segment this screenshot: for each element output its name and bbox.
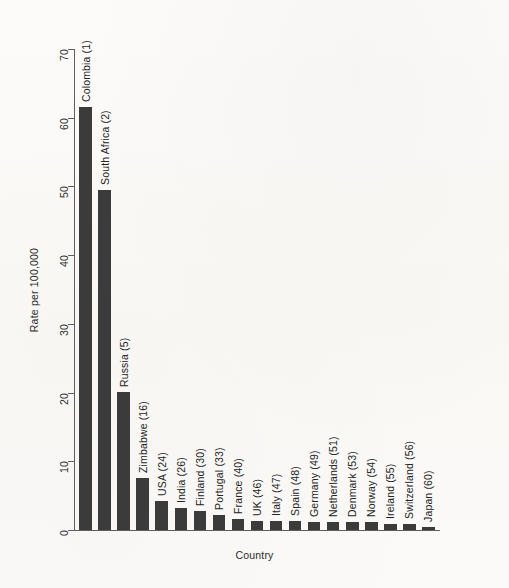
bar[interactable]	[155, 501, 168, 530]
x-axis-line	[74, 530, 440, 531]
y-tick-label: 30	[58, 324, 70, 336]
bar[interactable]	[327, 522, 340, 530]
bar[interactable]	[213, 515, 226, 530]
bar-item[interactable]: Norway (54)	[365, 49, 378, 530]
y-tick-label: 20	[58, 393, 70, 405]
y-tick-label: 10	[58, 461, 70, 473]
bar-item[interactable]: Italy (47)	[270, 49, 283, 530]
bar[interactable]	[308, 522, 321, 530]
bar[interactable]	[79, 107, 92, 530]
bar-label: Netherlands (51)	[327, 436, 339, 517]
bar[interactable]	[251, 521, 264, 530]
bar-label: Denmark (53)	[346, 451, 358, 517]
bar[interactable]	[98, 190, 111, 530]
y-tick-label: 0	[58, 530, 70, 536]
bar[interactable]	[289, 521, 302, 530]
bar-item[interactable]: Denmark (53)	[346, 49, 359, 530]
y-tick-label: 50	[58, 186, 70, 198]
bar-item[interactable]: India (26)	[175, 49, 188, 530]
bar-item[interactable]: Spain (48)	[289, 49, 302, 530]
bar[interactable]	[232, 519, 245, 530]
bar-label: Spain (48)	[289, 466, 301, 516]
bar-label: Norway (54)	[365, 459, 377, 518]
bar-label: Colombia (1)	[80, 41, 92, 103]
bar-label: India (26)	[175, 457, 187, 503]
bar-label: UK (46)	[251, 479, 263, 516]
y-axis-title: Rate per 100,000	[28, 248, 40, 332]
bar-item[interactable]: Portugal (33)	[213, 49, 226, 530]
bar-label: South Africa (2)	[99, 110, 111, 185]
y-tick-label: 60	[58, 118, 70, 130]
bar-item[interactable]: Zimbabwe (16)	[136, 49, 149, 530]
bar-label: Switzerland (56)	[403, 441, 415, 519]
bar-label: Russia (5)	[118, 338, 130, 387]
bar-series: Colombia (1)South Africa (2)Russia (5)Zi…	[76, 49, 438, 530]
bar-item[interactable]: Colombia (1)	[79, 49, 92, 530]
bar-label: USA (24)	[156, 452, 168, 496]
bar-item[interactable]: Ireland (55)	[384, 49, 397, 530]
y-tick-label: 70	[58, 49, 70, 61]
bar-label: Finland (30)	[194, 449, 206, 507]
bar-label: Italy (47)	[270, 474, 282, 516]
bar-item[interactable]: Finland (30)	[194, 49, 207, 530]
bar[interactable]	[117, 392, 130, 530]
bar-item[interactable]: Switzerland (56)	[403, 49, 416, 530]
bar-label: Germany (49)	[308, 450, 320, 517]
chart-page: 010203040506070 Rate per 100,000 Country…	[0, 0, 509, 588]
bar[interactable]	[270, 521, 283, 530]
bar-item[interactable]: Japan (60)	[422, 49, 435, 530]
bar[interactable]	[194, 511, 207, 530]
bar-item[interactable]: South Africa (2)	[98, 49, 111, 530]
bar-item[interactable]: Russia (5)	[117, 49, 130, 530]
bar-item[interactable]: UK (46)	[251, 49, 264, 530]
bar[interactable]	[403, 524, 416, 530]
bar-chart: 010203040506070 Rate per 100,000 Country…	[0, 0, 509, 588]
bar-item[interactable]: USA (24)	[155, 49, 168, 530]
bar-label: France (40)	[232, 458, 244, 514]
bar-item[interactable]: France (40)	[232, 49, 245, 530]
bar[interactable]	[346, 522, 359, 530]
bar-label: Ireland (55)	[384, 463, 396, 519]
bar[interactable]	[136, 478, 149, 530]
y-axis-line	[74, 49, 75, 531]
bar[interactable]	[422, 527, 435, 530]
x-axis-title: Country	[0, 549, 509, 561]
bar[interactable]	[365, 522, 378, 530]
bar[interactable]	[384, 524, 397, 530]
bar[interactable]	[175, 508, 188, 530]
bar-item[interactable]: Netherlands (51)	[327, 49, 340, 530]
bar-label: Japan (60)	[422, 470, 434, 522]
bar-item[interactable]: Germany (49)	[308, 49, 321, 530]
y-tick-label: 40	[58, 255, 70, 267]
bar-label: Zimbabwe (16)	[137, 401, 149, 473]
bar-label: Portugal (33)	[213, 447, 225, 510]
